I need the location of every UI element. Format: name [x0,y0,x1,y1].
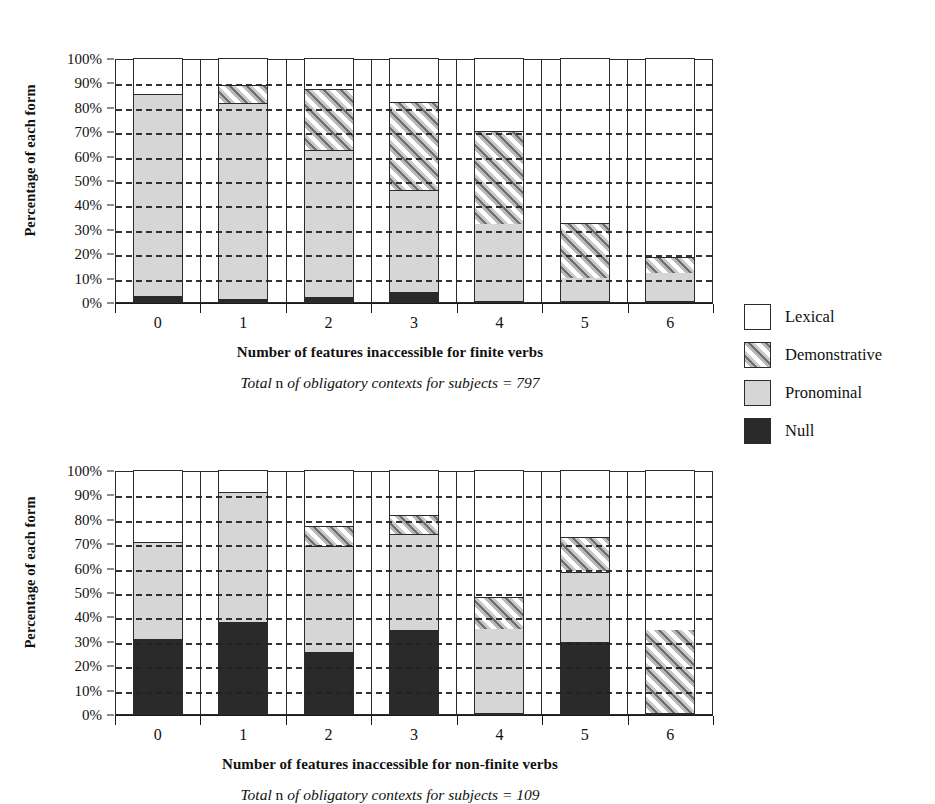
segment-lexical[interactable] [561,58,609,223]
segment-demonstrative[interactable] [305,89,353,150]
stacked-bar[interactable] [474,58,524,302]
segment-null[interactable] [305,652,353,713]
y-tick-label: 30% [75,222,103,237]
gridline [116,231,712,233]
stacked-bar[interactable] [218,470,268,714]
legend-label: Lexical [785,307,834,327]
legend-label: Pronominal [785,383,862,403]
segment-lexical[interactable] [390,470,438,515]
bar-slot [628,60,712,302]
y-tick-label: 50% [75,174,103,189]
gridline [116,692,712,694]
segment-pronominal[interactable] [134,94,182,297]
y-tick-mark [107,544,114,545]
stacked-bar[interactable] [560,470,610,714]
x-tick-mark [542,716,543,725]
segment-null[interactable] [561,642,609,713]
segment-null[interactable] [305,297,353,301]
segment-demonstrative[interactable] [305,526,353,546]
y-tick-mark [107,278,114,279]
y-tick-label: 100% [67,464,102,479]
y-tick-mark [107,593,114,594]
y-tick-label: 30% [75,634,103,649]
segment-pronominal[interactable] [646,273,694,301]
y-tick-label: 40% [75,198,103,213]
segment-lexical[interactable] [219,58,267,85]
stacked-bar[interactable] [304,58,354,302]
segment-pronominal[interactable] [134,542,182,638]
segment-lexical[interactable] [561,470,609,537]
segment-pronominal[interactable] [305,150,353,298]
legend-item-demonstrative[interactable]: Demonstrative [744,336,924,374]
subtitle-n: n [276,786,284,803]
segment-null[interactable] [134,639,182,713]
x-tick-mark [371,716,372,725]
segment-lexical[interactable] [475,58,523,131]
gridline [116,545,712,547]
bar-slots [116,60,712,302]
segment-pronominal[interactable] [475,224,523,301]
segment-pronominal[interactable] [390,534,438,630]
subtitle-lead: Total [240,786,271,803]
legend-item-pronominal[interactable]: Pronominal [744,374,924,412]
x-tick-mark [200,304,201,313]
segment-lexical[interactable] [475,470,523,597]
segment-demonstrative[interactable] [561,537,609,571]
legend-item-lexical[interactable]: Lexical [744,298,924,336]
stacked-bar[interactable] [133,58,183,302]
x-axis-subtitle: Total n of obligatory contexts for subje… [60,374,720,392]
legend-item-null[interactable]: Null [744,412,924,450]
y-tick-label: 0% [82,296,102,311]
stacked-bar[interactable] [304,470,354,714]
segment-lexical[interactable] [646,470,694,630]
segment-demonstrative[interactable] [475,597,523,629]
segment-demonstrative[interactable] [390,515,438,533]
y-tick-label: 0% [82,708,102,723]
segment-lexical[interactable] [134,58,182,94]
segment-null[interactable] [390,292,438,301]
x-axis-title: Number of features inaccessible for fini… [60,344,720,361]
stacked-bar[interactable] [560,58,610,302]
legend-swatch-lexical [744,304,771,330]
y-tick-mark [107,107,114,108]
stacked-bar[interactable] [645,470,695,714]
segment-null[interactable] [134,296,182,301]
stacked-bar[interactable] [645,58,695,302]
chart-finite-verbs: Percentage of each form 0%10%20%30%40%50… [0,18,735,303]
bar-slot [116,472,201,714]
x-tick-mark [628,304,629,313]
stacked-bar[interactable] [474,470,524,714]
segment-pronominal[interactable] [475,629,523,713]
segment-demonstrative[interactable] [219,85,267,103]
y-tick-mark [107,83,114,84]
segment-lexical[interactable] [219,470,267,492]
gridline [116,643,712,645]
x-tick-mark [115,304,116,313]
segment-pronominal[interactable] [305,546,353,652]
segment-null[interactable] [219,299,267,301]
y-tick-mark [107,59,114,60]
x-tick-label: 2 [286,314,371,332]
bar-slot [457,472,542,714]
y-tick-label: 80% [75,100,103,115]
stacked-bar[interactable] [133,470,183,714]
y-tick-label: 90% [75,76,103,91]
legend-label: Null [785,421,814,441]
segment-demonstrative[interactable] [475,131,523,224]
gridline [116,206,712,208]
segment-demonstrative[interactable] [390,102,438,190]
segment-lexical[interactable] [134,470,182,542]
segment-pronominal[interactable] [390,190,438,292]
x-tick-label: 1 [200,726,285,744]
stacked-bar[interactable] [218,58,268,302]
segment-pronominal[interactable] [561,572,609,643]
y-tick-label: 50% [75,586,103,601]
segment-lexical[interactable] [390,58,438,102]
segment-pronominal[interactable] [219,492,267,621]
x-tick-label: 3 [371,726,456,744]
stacked-bar[interactable] [389,58,439,302]
plot-area [115,59,713,303]
x-tick-label: 0 [115,726,200,744]
stacked-bar[interactable] [389,470,439,714]
segment-demonstrative[interactable] [646,257,694,273]
